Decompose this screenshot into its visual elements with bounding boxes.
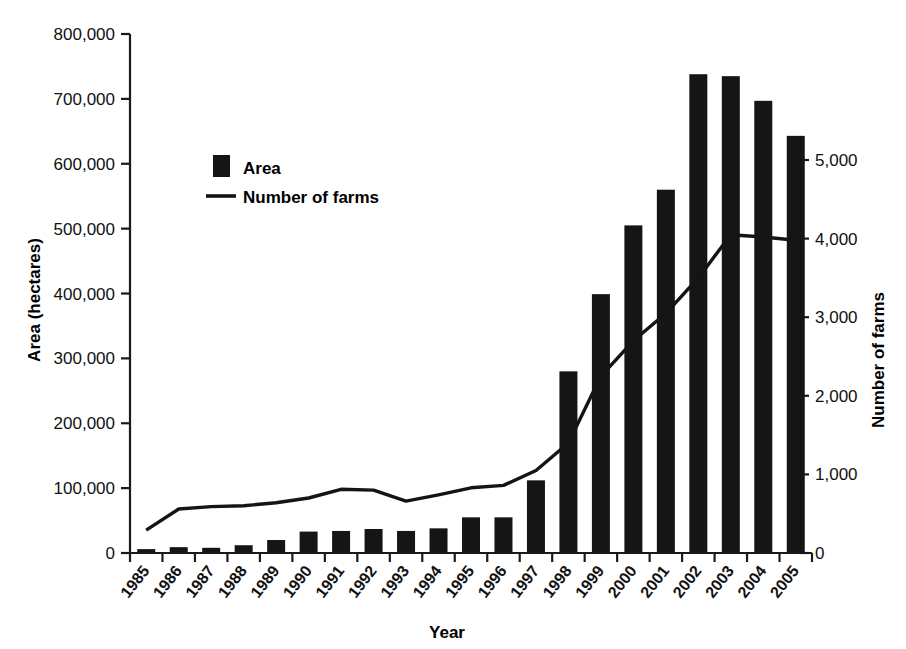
left-axis-ticks bbox=[121, 34, 130, 553]
bar-2004 bbox=[754, 101, 772, 553]
bar-2001 bbox=[657, 190, 675, 553]
x-tick-label: 1988 bbox=[215, 562, 250, 601]
left-tick-label: 800,000 bbox=[54, 25, 115, 44]
legend-label-area: Area bbox=[243, 159, 281, 178]
bar-1994 bbox=[430, 528, 448, 553]
x-tick-label: 1990 bbox=[280, 562, 315, 601]
x-tick-label: 1987 bbox=[182, 562, 217, 601]
x-tick-label: 1991 bbox=[312, 562, 347, 601]
chart-canvas: 0100,000200,000300,000400,000500,000600,… bbox=[0, 0, 906, 649]
x-tick-label: 1985 bbox=[117, 562, 152, 601]
x-tick-label: 2000 bbox=[604, 562, 639, 601]
left-tick-label: 300,000 bbox=[54, 349, 115, 368]
x-axis-title: Year bbox=[429, 623, 465, 642]
x-tick-label: 2003 bbox=[702, 562, 737, 601]
bar-1991 bbox=[332, 531, 350, 553]
bar-1997 bbox=[527, 480, 545, 553]
x-tick-label: 2001 bbox=[637, 562, 672, 601]
right-axis-tick-labels: 01,0002,0003,0004,0005,000 bbox=[815, 151, 858, 563]
right-tick-label: 5,000 bbox=[815, 151, 858, 170]
x-tick-label: 1989 bbox=[247, 562, 282, 601]
bar-1989 bbox=[267, 540, 285, 553]
bar-1993 bbox=[397, 531, 415, 553]
bar-1987 bbox=[202, 548, 220, 553]
legend: Area Number of farms bbox=[206, 155, 379, 207]
bar-1990 bbox=[300, 532, 318, 553]
bar-1992 bbox=[365, 529, 383, 553]
bar-2003 bbox=[722, 76, 740, 553]
left-axis-title: Area (hectares) bbox=[25, 238, 44, 362]
bar-series-area bbox=[137, 74, 805, 553]
x-tick-label: 1997 bbox=[507, 562, 542, 601]
x-axis-tick-labels: 1985198619871988198919901991199219931994… bbox=[117, 562, 802, 601]
right-tick-label: 4,000 bbox=[815, 230, 858, 249]
x-tick-label: 1996 bbox=[475, 562, 510, 601]
x-tick-label: 1995 bbox=[442, 562, 477, 601]
right-axis-title: Number of farms bbox=[869, 292, 888, 428]
bar-2002 bbox=[689, 74, 707, 553]
left-tick-label: 500,000 bbox=[54, 220, 115, 239]
x-tick-label: 1986 bbox=[150, 562, 185, 601]
x-tick-label: 1998 bbox=[539, 562, 574, 601]
right-tick-label: 0 bbox=[815, 544, 824, 563]
x-tick-label: 1992 bbox=[345, 562, 380, 601]
x-tick-label: 1999 bbox=[572, 562, 607, 601]
bar-1999 bbox=[592, 294, 610, 553]
x-axis: 1985198619871988198919901991199219931994… bbox=[117, 553, 812, 642]
chart-container: 0100,000200,000300,000400,000500,000600,… bbox=[0, 0, 906, 649]
x-tick-label: 1993 bbox=[377, 562, 412, 601]
left-tick-label: 600,000 bbox=[54, 155, 115, 174]
bar-2000 bbox=[624, 225, 642, 553]
right-axis: 01,0002,0003,0004,0005,000 Number of far… bbox=[800, 151, 888, 563]
bar-1985 bbox=[137, 549, 155, 553]
left-tick-label: 700,000 bbox=[54, 90, 115, 109]
bar-1998 bbox=[559, 371, 577, 553]
bar-1988 bbox=[235, 545, 253, 553]
left-axis-tick-labels: 0100,000200,000300,000400,000500,000600,… bbox=[54, 25, 115, 563]
bar-1995 bbox=[462, 517, 480, 553]
bar-1986 bbox=[170, 547, 188, 553]
legend-marker-area bbox=[213, 155, 230, 177]
right-tick-label: 2,000 bbox=[815, 387, 858, 406]
bar-2005 bbox=[787, 136, 805, 553]
x-tick-label: 2004 bbox=[734, 562, 769, 601]
legend-label-number-of-farms: Number of farms bbox=[243, 188, 379, 207]
left-tick-label: 0 bbox=[106, 544, 115, 563]
bar-1996 bbox=[494, 517, 512, 553]
x-tick-label: 2002 bbox=[669, 562, 704, 601]
x-tick-label: 1994 bbox=[410, 562, 445, 601]
right-tick-label: 3,000 bbox=[815, 308, 858, 327]
left-tick-label: 100,000 bbox=[54, 479, 115, 498]
left-tick-label: 200,000 bbox=[54, 414, 115, 433]
right-tick-label: 1,000 bbox=[815, 465, 858, 484]
x-tick-label: 2005 bbox=[767, 562, 802, 601]
x-axis-ticks bbox=[130, 553, 812, 562]
left-axis: 0100,000200,000300,000400,000500,000600,… bbox=[25, 25, 130, 563]
left-tick-label: 400,000 bbox=[54, 285, 115, 304]
